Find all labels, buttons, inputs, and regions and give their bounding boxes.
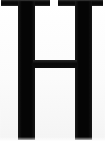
glyph-right-stem	[75, 1, 92, 140]
scanned-glyph-image	[0, 0, 105, 142]
glyph-crossbar	[33, 60, 77, 68]
glyph-left-stem	[18, 1, 35, 140]
